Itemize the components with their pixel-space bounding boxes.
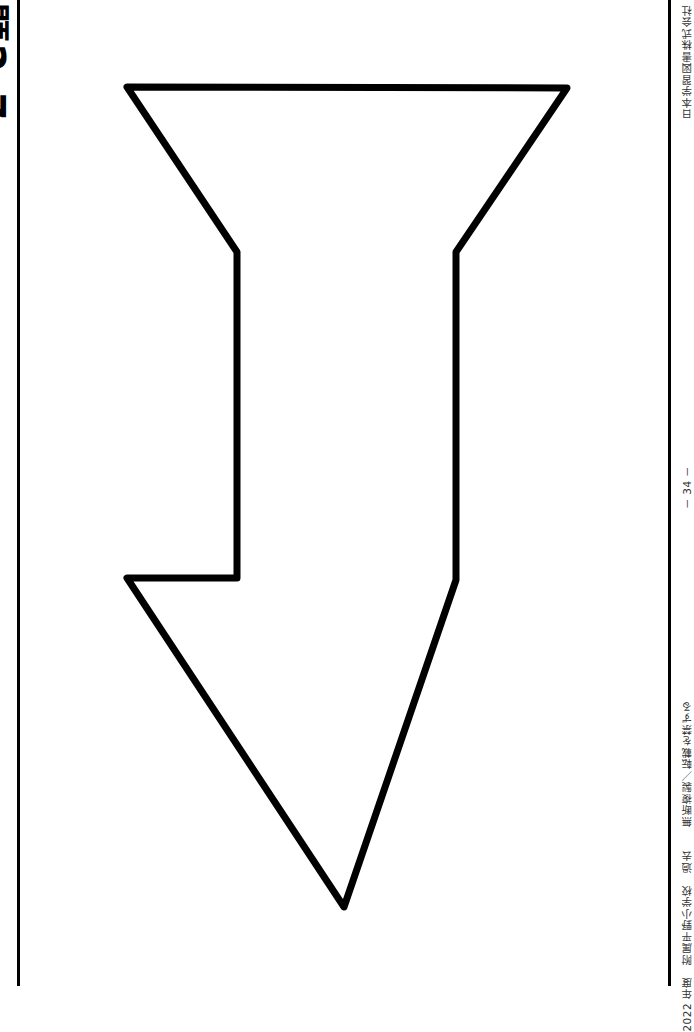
- page-number: － 34 －: [679, 466, 694, 509]
- footer-copyright: 2022 年度 附属平野小学校 過去 無断複製／転載を禁ずる: [679, 700, 694, 1032]
- publisher-text: 日本学習図書株式会社: [681, 4, 693, 119]
- arrow-outline: [127, 87, 567, 907]
- publisher-label: 日本学習図書株式会社: [679, 4, 694, 119]
